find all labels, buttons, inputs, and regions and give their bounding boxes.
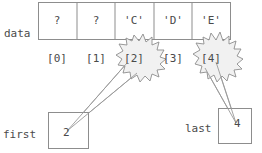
array-cell-value-3: 'D' <box>154 14 192 27</box>
first-arrow-tip-b <box>67 73 137 131</box>
array-index-label-2: [2] <box>115 52 153 65</box>
array-index-label-3: [3] <box>154 52 192 65</box>
first-pointer-value: 2 <box>63 126 70 139</box>
first-pointer-label: first <box>3 128 36 141</box>
array-cell-value-2: 'C' <box>115 14 153 27</box>
array-index-label-1: [1] <box>77 52 115 65</box>
first-arrow-tip-a <box>67 63 127 131</box>
array-name-label: data <box>4 27 31 40</box>
array-index-label-4: [4] <box>192 52 230 65</box>
diagram-canvas: data first last ? ? 'C' 'D' 'E' [0] [1] … <box>0 0 262 153</box>
array-cell-value-4: 'E' <box>192 14 230 27</box>
last-pointer-label: last <box>185 122 212 135</box>
array-cell-value-1: ? <box>77 14 115 27</box>
pointer-boxes <box>49 109 252 149</box>
last-pointer-value: 4 <box>234 117 241 130</box>
array-index-label-0: [0] <box>38 52 76 65</box>
array-cell-value-0: ? <box>38 14 76 27</box>
